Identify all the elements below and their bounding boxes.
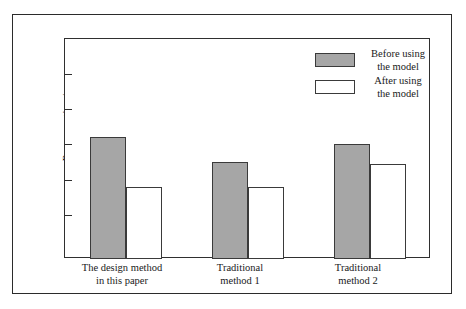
bar-after-group-2 <box>370 164 406 259</box>
y-tick-mark-30 <box>65 109 72 110</box>
legend-swatch-after-icon <box>315 80 355 94</box>
bar-before-group-0 <box>90 137 126 259</box>
category-label-1-line2: method 1 <box>220 275 259 286</box>
bar-before-group-2 <box>334 144 370 259</box>
plot-area: 1520253035 Before using the model After … <box>64 38 430 258</box>
legend-label-after-line2: the model <box>377 88 419 99</box>
legend-label-after: After using the model <box>363 75 433 100</box>
category-label-1: Traditional method 1 <box>180 262 300 287</box>
legend-label-before-line1: Before using <box>371 48 425 59</box>
legend-item-after: After using the model <box>315 78 427 104</box>
bar-after-group-0 <box>126 187 162 259</box>
category-label-0-line2: in this paper <box>96 275 148 286</box>
category-label-2-line2: method 2 <box>338 275 377 286</box>
category-label-2-line1: Traditional <box>335 262 381 273</box>
category-label-0: The design method in this paper <box>62 262 182 287</box>
category-label-2: Traditional method 2 <box>298 262 418 287</box>
legend-label-before: Before using the model <box>363 48 433 73</box>
bar-before-group-1 <box>212 162 248 259</box>
category-label-0-line1: The design method <box>82 262 162 273</box>
bar-after-group-1 <box>248 187 284 259</box>
y-tick-mark-20 <box>65 180 72 181</box>
y-tick-mark-25 <box>65 144 72 145</box>
category-label-1-line1: Traditional <box>217 262 263 273</box>
legend-item-before: Before using the model <box>315 51 427 77</box>
figure-container: Response time/s 1520253035 Before using … <box>0 0 466 309</box>
legend-swatch-before-icon <box>315 53 355 67</box>
legend-label-before-line2: the model <box>377 61 419 72</box>
y-tick-mark-35 <box>65 74 72 75</box>
chart-legend: Before using the model After using the m… <box>315 45 425 101</box>
y-tick-mark-15 <box>65 215 72 216</box>
legend-label-after-line1: After using <box>374 75 422 86</box>
